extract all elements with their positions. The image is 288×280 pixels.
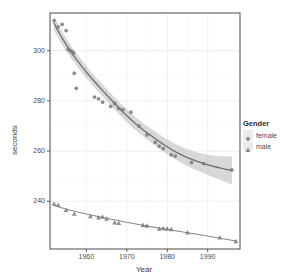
- legend-entries: femalemale: [243, 130, 288, 151]
- data-point-female: [52, 19, 56, 23]
- data-point-female: [117, 107, 121, 111]
- data-point-female: [157, 144, 161, 148]
- data-point-female: [101, 100, 105, 104]
- data-point-female: [145, 133, 149, 137]
- data-point-female: [74, 86, 78, 90]
- data-point-female: [72, 51, 76, 55]
- data-point-female: [230, 168, 234, 172]
- legend: Gender femalemale: [243, 119, 288, 152]
- chart-figure: 240260280300 1960197019801990 seconds Ye…: [0, 0, 288, 280]
- data-point-female: [93, 95, 97, 99]
- x-tick-label: 1960: [70, 253, 102, 260]
- x-tick-label: 1990: [192, 253, 224, 260]
- data-point-female: [56, 25, 60, 29]
- data-point-female: [190, 160, 194, 164]
- data-point-female: [109, 105, 113, 109]
- triangle-marker-icon: [243, 141, 253, 151]
- y-tick-label: 300: [20, 47, 45, 54]
- data-point-female: [97, 97, 101, 101]
- y-tick-label: 240: [20, 197, 45, 204]
- x-tick-label: 1980: [151, 253, 183, 260]
- circle-marker-icon: [243, 130, 253, 140]
- legend-item-male[interactable]: male: [243, 141, 288, 151]
- x-tick-label: 1970: [111, 253, 143, 260]
- data-point-female: [60, 22, 64, 26]
- data-point-female: [161, 147, 165, 151]
- x-axis-title: Year: [0, 265, 288, 274]
- legend-label: female: [256, 132, 277, 139]
- data-point-female: [202, 162, 206, 166]
- data-point-female: [129, 110, 133, 114]
- data-point-female: [121, 108, 125, 112]
- y-tick-label: 280: [20, 97, 45, 104]
- data-point-female: [169, 153, 173, 157]
- legend-item-female[interactable]: female: [243, 130, 288, 140]
- data-point-female: [137, 124, 141, 128]
- y-axis-title: seconds: [10, 125, 19, 155]
- data-point-female: [173, 154, 177, 158]
- data-point-female: [72, 71, 76, 75]
- data-point-female: [113, 101, 117, 105]
- legend-label: male: [256, 143, 271, 150]
- data-point-female: [64, 29, 68, 33]
- y-tick-label: 260: [20, 147, 45, 154]
- data-point-female: [153, 140, 157, 144]
- legend-title: Gender: [243, 119, 288, 128]
